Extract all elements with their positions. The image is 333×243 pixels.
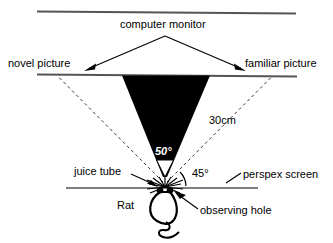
computer-monitor-leader-arrows — [89, 36, 241, 69]
novel-picture-arrowhead — [84, 64, 96, 72]
observing-hole-leader — [180, 196, 198, 209]
label-rat: Rat — [117, 200, 134, 211]
label-angle-45-degrees: 45° — [192, 168, 209, 179]
observing-hole-arrowhead — [174, 191, 186, 199]
diagram-canvas: computer monitor novel picture familiar … — [0, 0, 333, 243]
label-novel-picture: novel picture — [8, 58, 70, 69]
perspex-screen-leader — [226, 173, 241, 183]
apparatus-diagram — [0, 0, 333, 243]
label-observing-hole: observing hole — [200, 205, 272, 216]
label-angle-50-degrees: 50° — [155, 146, 172, 157]
label-perspex-screen: perspex screen — [243, 169, 318, 180]
cone-apex-notch — [157, 160, 174, 177]
label-familiar-picture: familiar picture — [245, 58, 317, 69]
rat-icon — [150, 188, 179, 238]
label-computer-monitor: computer monitor — [120, 19, 206, 30]
label-juice-tube: juice tube — [74, 166, 121, 177]
label-distance-30cm: 30cm — [209, 115, 236, 126]
computer-monitor-line — [37, 12, 296, 14]
